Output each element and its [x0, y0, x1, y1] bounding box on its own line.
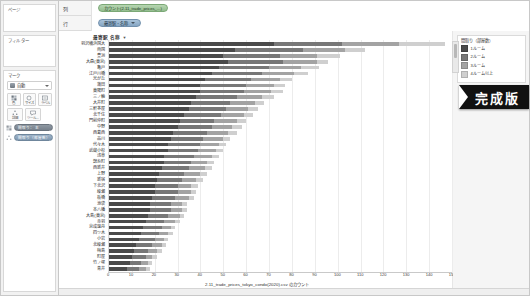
stacked-bar[interactable]	[109, 232, 173, 236]
bar-segment[interactable]	[146, 267, 151, 271]
bar-segment[interactable]	[164, 155, 194, 159]
bar-segment[interactable]	[175, 196, 189, 200]
legend-item[interactable]: 1ルーム	[461, 45, 522, 52]
viz-column-header[interactable]: 最寄駅 名称 ▼	[59, 31, 452, 40]
bar-segment[interactable]	[274, 42, 343, 46]
bar-segment[interactable]	[212, 155, 219, 159]
stacked-bar[interactable]	[109, 255, 157, 259]
pages-shelf[interactable]: ページ	[3, 4, 56, 32]
stacked-bar[interactable]	[109, 84, 285, 88]
bar-segment[interactable]	[271, 90, 282, 94]
bar-segment[interactable]	[171, 208, 182, 212]
bar-segment[interactable]	[182, 178, 196, 182]
bar-segment[interactable]	[180, 119, 214, 123]
bar-segment[interactable]	[221, 113, 244, 117]
bar-segment[interactable]	[345, 48, 366, 52]
bar-segment[interactable]	[109, 155, 164, 159]
bar-segment[interactable]	[164, 238, 169, 242]
bar-segment[interactable]	[246, 84, 273, 88]
bar-segment[interactable]	[155, 238, 164, 242]
stacked-bar[interactable]	[109, 190, 196, 194]
bar-segment[interactable]	[248, 107, 257, 111]
bar-segment[interactable]	[109, 249, 134, 253]
bar-segment[interactable]	[134, 249, 148, 253]
bar-segment[interactable]	[109, 107, 189, 111]
bar-segment[interactable]	[146, 255, 153, 259]
stacked-bar[interactable]	[109, 249, 162, 253]
bar-segment[interactable]	[180, 214, 185, 218]
bar-segment[interactable]	[168, 232, 173, 236]
bar-segment[interactable]	[109, 261, 130, 265]
bar-segment[interactable]	[205, 78, 251, 82]
bar-segment[interactable]	[148, 261, 153, 265]
bar-segment[interactable]	[109, 78, 205, 82]
viz-scrollbar[interactable]	[452, 41, 459, 73]
bar-segment[interactable]	[164, 220, 175, 224]
bar-segment[interactable]	[182, 208, 187, 212]
bar-segment[interactable]	[262, 72, 294, 76]
bar-segment[interactable]	[109, 267, 127, 271]
bar-segment[interactable]	[269, 66, 301, 70]
bar-segment[interactable]	[109, 255, 132, 259]
stacked-bar[interactable]	[109, 214, 184, 218]
stacked-bar[interactable]	[109, 202, 187, 206]
bar-segment[interactable]	[303, 48, 344, 52]
bar-segment[interactable]	[237, 95, 262, 99]
bar-segment[interactable]	[164, 161, 191, 165]
bar-segment[interactable]	[200, 84, 246, 88]
bar-segment[interactable]	[207, 131, 228, 135]
bar-segment[interactable]	[294, 72, 308, 76]
bar-segment[interactable]	[228, 60, 283, 64]
bar-segment[interactable]	[223, 137, 230, 141]
bar-segment[interactable]	[152, 196, 175, 200]
stacked-bar[interactable]	[109, 107, 258, 111]
bar-segment[interactable]	[171, 226, 176, 230]
bar-segment[interactable]	[109, 232, 141, 236]
columns-shelf[interactable]: 列 カウント(2.11_trade_prices_...)	[59, 1, 529, 16]
bar-segment[interactable]	[109, 95, 196, 99]
bar-segment[interactable]	[162, 226, 171, 230]
bar-segment[interactable]	[132, 255, 146, 259]
stacked-bar[interactable]	[109, 238, 168, 242]
bar-segment[interactable]	[150, 202, 171, 206]
bar-segment[interactable]	[178, 125, 212, 129]
bar-segment[interactable]	[200, 90, 243, 94]
bar-segment[interactable]	[184, 113, 221, 117]
bar-segment[interactable]	[162, 243, 167, 247]
bar-segment[interactable]	[189, 107, 226, 111]
bar-segment[interactable]	[148, 214, 169, 218]
bar-segment[interactable]	[226, 107, 249, 111]
bar-segment[interactable]	[283, 60, 317, 64]
rows-shelf[interactable]: 行 最寄駅・名称	[59, 16, 529, 31]
stacked-bar[interactable]	[109, 78, 292, 82]
bar-segment[interactable]	[157, 178, 182, 182]
bar-segment[interactable]	[109, 137, 171, 141]
bar-segment[interactable]	[109, 66, 219, 70]
bar-segment[interactable]	[109, 42, 274, 46]
bar-segment[interactable]	[317, 60, 328, 64]
rows-shelf-drop[interactable]: 最寄駅・名称	[91, 16, 529, 31]
bar-segment[interactable]	[109, 149, 168, 153]
bar-segment[interactable]	[109, 143, 168, 147]
bar-segment[interactable]	[219, 143, 226, 147]
stacked-bar[interactable]	[109, 119, 246, 123]
stacked-bar[interactable]	[109, 220, 180, 224]
bar-segment[interactable]	[196, 95, 237, 99]
stacked-bar[interactable]	[109, 60, 329, 64]
stacked-bar[interactable]	[109, 161, 214, 165]
bar-segment[interactable]	[109, 54, 223, 58]
stacked-bar[interactable]	[109, 125, 242, 129]
bar-segment[interactable]	[162, 166, 189, 170]
marks-detail-button[interactable]: 詳細	[7, 108, 23, 121]
columns-shelf-drop[interactable]: カウント(2.11_trade_prices_...)	[91, 1, 529, 16]
bar-segment[interactable]	[109, 72, 212, 76]
bar-segment[interactable]	[280, 78, 291, 82]
bar-segment[interactable]	[230, 101, 255, 105]
bar-segment[interactable]	[244, 113, 253, 117]
bar-segment[interactable]	[251, 78, 281, 82]
bar-segment[interactable]	[342, 42, 399, 46]
stacked-bar[interactable]	[109, 261, 152, 265]
bar-segment[interactable]	[157, 249, 162, 253]
bar-segment[interactable]	[184, 172, 200, 176]
bar-segment[interactable]	[178, 190, 192, 194]
